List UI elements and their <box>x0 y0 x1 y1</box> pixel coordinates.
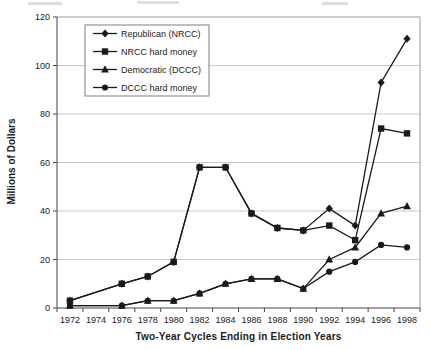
square-marker <box>326 222 332 228</box>
series-line <box>70 129 407 301</box>
legend-label: Republican (NRCC) <box>121 29 201 39</box>
y-tick-label: 60 <box>40 158 50 168</box>
legend-label: DCCC hard money <box>121 83 198 93</box>
square-marker <box>352 237 358 243</box>
circle-marker <box>300 286 306 292</box>
y-tick-label: 40 <box>40 206 50 216</box>
x-tick-label: 1976 <box>112 315 132 325</box>
circle-marker <box>326 269 332 275</box>
circle-marker <box>171 298 177 304</box>
square-marker <box>170 259 176 265</box>
x-tick-label: 1994 <box>345 315 365 325</box>
x-tick-label: 1990 <box>293 315 313 325</box>
square-marker <box>378 125 384 131</box>
chart-figure: 0204060801001201972197419761978198019821… <box>0 0 430 350</box>
y-tick-label: 20 <box>40 255 50 265</box>
x-tick-label: 1974 <box>86 315 106 325</box>
legend-label: NRCC hard money <box>121 47 198 57</box>
circle-marker <box>248 276 254 282</box>
square-marker <box>145 273 151 279</box>
circle-marker <box>404 244 410 250</box>
circle-marker <box>102 84 108 90</box>
line-chart: 0204060801001201972197419761978198019821… <box>0 0 430 350</box>
square-marker <box>404 130 410 136</box>
legend-label: Democratic (DCCC) <box>121 65 201 75</box>
square-marker <box>300 227 306 233</box>
x-tick-label: 1998 <box>397 315 417 325</box>
x-axis-title: Two-Year Cycles Ending in Election Years <box>57 331 420 342</box>
y-tick-label: 80 <box>40 109 50 119</box>
x-tick-label: 1984 <box>216 315 236 325</box>
y-tick-label: 100 <box>35 61 50 71</box>
y-axis-title: Millions of Dollars <box>6 107 17 217</box>
x-tick-label: 1972 <box>60 315 80 325</box>
series-dccc-hard-money <box>67 242 410 309</box>
square-marker <box>196 164 202 170</box>
x-tick-label: 1982 <box>190 315 210 325</box>
y-tick-label: 120 <box>35 12 50 22</box>
square-marker <box>248 210 254 216</box>
x-axis: 1972197419761978198019821984198619881990… <box>57 308 420 325</box>
diamond-marker <box>403 35 410 43</box>
circle-marker <box>274 276 280 282</box>
square-marker <box>119 281 125 287</box>
series-nrcc-hard-money <box>67 125 410 304</box>
square-marker <box>274 225 280 231</box>
circle-marker <box>145 298 151 304</box>
circle-marker <box>197 290 203 296</box>
circle-marker <box>352 259 358 265</box>
circle-marker <box>119 302 125 308</box>
x-tick-label: 1988 <box>267 315 287 325</box>
x-tick-label: 1996 <box>371 315 391 325</box>
cropped-print-artifact <box>28 1 348 5</box>
square-marker <box>102 48 108 54</box>
legend: Republican (NRCC)NRCC hard moneyDemocrat… <box>85 25 209 96</box>
x-tick-label: 1986 <box>241 315 261 325</box>
diamond-marker <box>378 78 385 86</box>
circle-marker <box>378 242 384 248</box>
circle-marker <box>222 281 228 287</box>
x-tick-label: 1980 <box>164 315 184 325</box>
x-tick-label: 1992 <box>319 315 339 325</box>
x-tick-label: 1978 <box>138 315 158 325</box>
series-line <box>70 245 407 306</box>
y-tick-label: 0 <box>45 303 50 313</box>
triangle-marker <box>403 202 411 209</box>
series-democratic-dccc <box>66 202 411 309</box>
circle-marker <box>67 302 73 308</box>
square-marker <box>222 164 228 170</box>
